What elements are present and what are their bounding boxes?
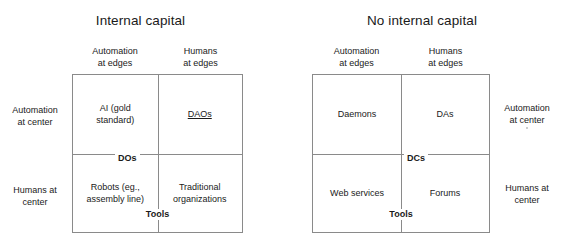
diagram-panel-no-internal-capital: No internal capital Automationat edges H… xyxy=(281,0,563,249)
horizontal-axis-tag-dcs: DCs xyxy=(404,153,428,164)
diagram-canvas: Internal capital Automationat edges Huma… xyxy=(0,0,563,249)
quadrant-cell-bottom-left[interactable]: Robots (eg.,assembly line) xyxy=(73,154,158,233)
quadrant-cell-label: DAOs xyxy=(188,108,212,120)
vertical-axis-tag-tools: Tools xyxy=(386,209,415,220)
vertical-axis-tag-tools: Tools xyxy=(143,209,172,220)
panel-title: No internal capital xyxy=(281,13,563,29)
quadrant-cell-label: Web services xyxy=(330,187,384,199)
horizontal-axis-tag-dos: DOs xyxy=(115,153,140,164)
row-label-automation-at-center: Automationat center xyxy=(493,103,561,126)
quadrant-cell-label: Forums xyxy=(430,187,461,199)
quadrant-cell-bottom-left[interactable]: Web services xyxy=(313,154,401,233)
quadrant-cell-label: AI (goldstandard) xyxy=(96,102,134,126)
diagram-panel-internal-capital: Internal capital Automationat edges Huma… xyxy=(0,0,281,249)
quadrant-cell-label: DAs xyxy=(436,108,453,120)
quadrant-cell-label: Robots (eg.,assembly line) xyxy=(86,181,144,205)
column-header-humans-at-edges: Humansat edges xyxy=(401,46,490,69)
horizontal-divider-line xyxy=(313,154,489,155)
quadrant-matrix: Daemons DAs Web services Forums Tools xyxy=(312,74,490,233)
column-header-humans-at-edges: Humansat edges xyxy=(158,46,243,69)
quadrant-cell-top-right[interactable]: DAOs xyxy=(158,75,243,154)
quadrant-cell-top-left[interactable]: AI (goldstandard) xyxy=(73,75,158,154)
row-label-humans-at-center: Humans atcenter xyxy=(2,185,68,208)
quadrant-cell-bottom-right[interactable]: Traditionalorganizations xyxy=(158,154,243,233)
horizontal-divider-line xyxy=(73,154,242,155)
scan-artifact-speck xyxy=(526,127,528,129)
quadrant-cell-bottom-right[interactable]: Forums xyxy=(401,154,489,233)
quadrant-cell-top-right[interactable]: DAs xyxy=(401,75,489,154)
quadrant-cell-label: Daemons xyxy=(338,108,377,120)
quadrant-matrix: AI (goldstandard) DAOs Robots (eg.,assem… xyxy=(72,74,243,233)
row-label-automation-at-center: Automationat center xyxy=(2,105,68,128)
column-header-automation-at-edges: Automationat edges xyxy=(312,46,401,69)
panel-title: Internal capital xyxy=(0,13,281,29)
quadrant-cell-label: Traditionalorganizations xyxy=(173,181,227,205)
quadrant-cell-top-left[interactable]: Daemons xyxy=(313,75,401,154)
column-header-automation-at-edges: Automationat edges xyxy=(72,46,158,69)
row-label-humans-at-center: Humans atcenter xyxy=(493,183,561,206)
